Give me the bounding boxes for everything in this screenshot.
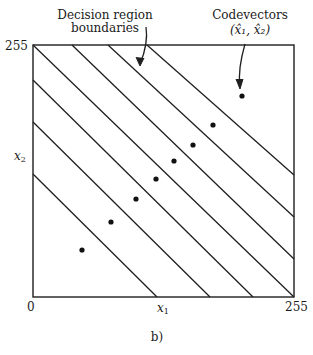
codevectors-label-line1: Codevectors [200,9,300,22]
boundaries-label-line2: boundaries [50,22,160,35]
codevector-dot [171,158,176,163]
y-axis-label-var: x [14,149,21,163]
y-axis-label-sub: 2 [21,155,26,164]
decision-boundaries [33,45,294,297]
boundary-line [33,174,157,297]
y-axis-label: x2 [14,150,26,166]
boundary-line [108,45,294,217]
boundary-arrowhead-icon [136,57,144,66]
codevector-arrowhead-icon [236,79,243,89]
boundary-line [33,45,294,297]
x-axis-label-sub: 1 [164,307,169,316]
y-max-label: 255 [5,40,28,53]
x-axis-label: x1 [157,302,169,318]
codevector-arrow-icon [239,44,245,85]
codevector-dot [210,122,215,127]
x-axis-label-var: x [157,301,164,315]
codevector-dot [79,247,84,252]
x-min-label: 0 [27,301,35,314]
x-max-label: 255 [285,301,308,314]
codevector-dot [108,219,113,224]
codevector-dot [153,176,158,181]
codevector-dot [190,142,195,147]
figure-caption: b) [140,331,174,344]
codevector-dot [133,196,138,201]
boundary-line [147,45,294,175]
codevectors [79,93,244,252]
codevector-dot [239,93,244,98]
boundary-line [33,122,210,297]
codevectors-label-line2: (x̂₁, x̂₂) [200,24,300,37]
